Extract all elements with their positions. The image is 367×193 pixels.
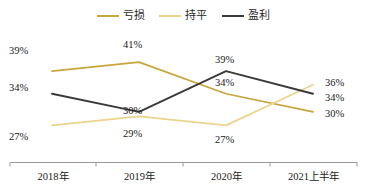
data-label-kuisun-2021: 30% (325, 109, 344, 120)
data-label-yingli-2018: 34% (9, 83, 28, 94)
x-axis-tick-2019: 2019年 (96, 171, 183, 183)
legend-item-chiping[interactable]: 持平 (159, 10, 208, 21)
x-axis-tick-2021: 2021上半年 (270, 171, 357, 183)
x-axis-tick-labels: 2018年 2019年 2020年 2021上半年 (0, 171, 367, 193)
data-label-kuisun-2018: 39% (9, 46, 28, 57)
series-line-kuisun (52, 62, 313, 112)
legend-item-yingli[interactable]: 盈利 (222, 10, 271, 21)
legend-label-kuisun: 亏损 (123, 10, 146, 21)
legend-label-yingli: 盈利 (248, 10, 271, 21)
x-axis-tick-2020: 2020年 (183, 171, 270, 183)
chart-legend: 亏损 持平 盈利 (0, 10, 367, 21)
legend-label-chiping: 持平 (185, 10, 208, 21)
data-label-chiping-2021: 36% (325, 78, 344, 89)
data-label-kuisun-2019: 41% (123, 40, 142, 51)
x-axis-line (0, 160, 367, 170)
data-label-yingli-2019: 30% (123, 106, 142, 117)
series-lines (0, 30, 367, 162)
data-label-chiping-2020: 27% (215, 135, 234, 146)
x-axis-tick-2018: 2018年 (10, 171, 96, 183)
data-label-chiping-2019: 29% (123, 129, 142, 140)
legend-line-swatch-kuisun (97, 15, 119, 17)
line-chart: 亏损 持平 盈利 39% 41% 34% 30% 27% 29% 27% 36%… (0, 0, 367, 193)
data-label-yingli-2020: 39% (215, 55, 234, 66)
legend-line-swatch-chiping (159, 15, 181, 17)
data-label-yingli-2021: 34% (325, 93, 344, 104)
x-axis: 2018年 2019年 2020年 2021上半年 (0, 160, 367, 193)
data-label-kuisun-2020: 34% (215, 78, 234, 89)
plot-area: 39% 41% 34% 30% 27% 29% 27% 36% 34% 30% … (0, 30, 367, 162)
data-label-chiping-2018: 27% (9, 132, 28, 143)
legend-item-kuisun[interactable]: 亏损 (97, 10, 146, 21)
legend-line-swatch-yingli (222, 15, 244, 17)
